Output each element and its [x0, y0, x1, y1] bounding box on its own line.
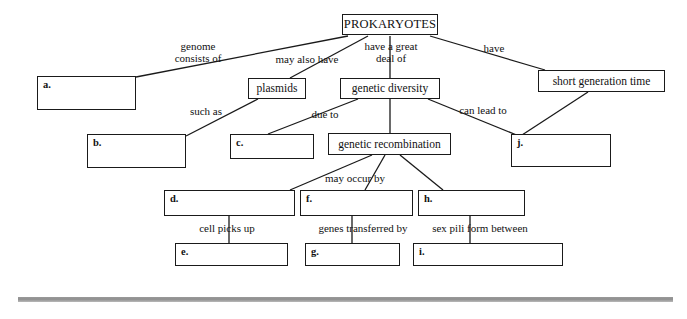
- link-label-cell-picks-up: cell picks up: [183, 222, 271, 234]
- blank-box-h[interactable]: h.: [418, 190, 525, 216]
- link-label-sex-pili-form-between: sex pili form between: [412, 222, 548, 234]
- link-label-genes-transferred-by: genes transferred by: [298, 222, 428, 234]
- link-label-due-to: due to: [302, 108, 348, 120]
- concept-map-canvas: PROKARYOTESa.plasmidsgenetic diversitysh…: [0, 0, 687, 319]
- link-label-can-lead-to: can lead to: [447, 104, 519, 116]
- link-label-such-as: such as: [180, 105, 232, 117]
- concept-box-gdiv: genetic diversity: [340, 78, 440, 99]
- link-label-may-also-have: may also have: [262, 53, 352, 65]
- connector-grec-to-h: [400, 155, 443, 190]
- concept-box-grec: genetic recombination: [328, 133, 451, 155]
- blank-box-a[interactable]: a.: [37, 76, 136, 110]
- blank-box-e[interactable]: e.: [175, 243, 288, 266]
- blank-box-b[interactable]: b.: [87, 134, 186, 168]
- link-label-genome-consists-of: genomeconsists of: [150, 40, 246, 65]
- blank-box-i[interactable]: i.: [413, 243, 563, 266]
- concept-box-plasmids: plasmids: [248, 78, 306, 99]
- concept-box-sgt: short generation time: [538, 70, 665, 92]
- connector-sgt-to-j: [522, 92, 588, 135]
- blank-box-d[interactable]: d.: [164, 190, 295, 216]
- footer-divider: [18, 297, 673, 302]
- blank-box-c[interactable]: c.: [230, 134, 314, 159]
- blank-box-f[interactable]: f.: [300, 190, 413, 216]
- blank-box-j[interactable]: j.: [511, 134, 611, 167]
- link-label-may-occur-by: may occur by: [311, 172, 399, 184]
- link-label-have-a-great-deal-of: have a greatdeal of: [348, 40, 434, 65]
- blank-box-g[interactable]: g.: [305, 243, 400, 266]
- concept-box-root: PROKARYOTES: [342, 14, 438, 35]
- link-label-have: have: [476, 42, 512, 54]
